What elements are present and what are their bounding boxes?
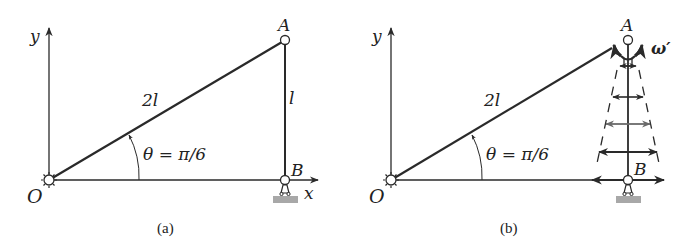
angular-velocity-label: ω′ [651,39,671,58]
origin-label: O [27,185,43,207]
x-axis-label: x [304,183,314,203]
diagram-canvas: y x 2l l θ = π/6 O A [0,0,695,250]
point-b-label: B [290,160,304,180]
panel-b: y 2l θ = π/6 O [369,15,671,237]
y-axis-label: y [29,26,40,46]
origin-label: O [369,185,385,207]
sweep-boundary-left [596,70,617,168]
panel-a: y x 2l l θ = π/6 O A [27,15,318,237]
link-ab-label: l [289,88,294,108]
joint-a-icon [624,36,633,45]
joint-a-icon [281,36,290,45]
angle-arc [472,135,482,180]
pivot-o-icon [41,172,57,188]
angle-label: θ = π/6 [143,144,206,164]
point-b-label: B [633,159,647,179]
sweep-boundary-right [639,70,660,168]
caption-b: (b) [500,220,518,237]
pivot-o-icon [383,172,399,188]
point-a-label: A [619,15,633,35]
link-oa-label: 2l [483,90,500,110]
point-a-label: A [276,15,290,35]
angle-arc [129,135,139,180]
link-oa-label: 2l [141,90,158,110]
y-axis-label: y [371,26,382,46]
caption-a: (a) [157,220,174,237]
angle-label: θ = π/6 [486,144,549,164]
